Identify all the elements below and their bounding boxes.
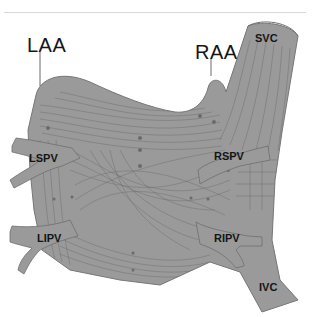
label-rspv: RSPV (214, 150, 244, 162)
label-svc: SVC (255, 32, 278, 44)
label-raa: RAA (195, 41, 238, 64)
label-ripv: RIPV (214, 232, 240, 244)
atria-body (28, 23, 298, 312)
label-laa: LAA (27, 34, 66, 57)
label-lspv: LSPV (29, 152, 58, 164)
label-lipv: LIPV (37, 232, 61, 244)
label-ivc: IVC (259, 281, 277, 293)
